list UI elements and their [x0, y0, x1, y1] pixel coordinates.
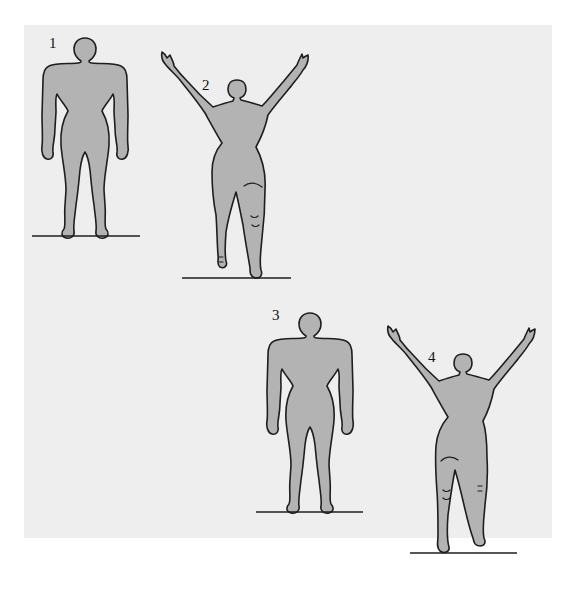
body-posture-diagram: 1 2 3 4 [0, 0, 572, 595]
figure-2-label: 2 [202, 77, 210, 93]
figure-4-label: 4 [428, 349, 436, 365]
figure-3-label: 3 [272, 307, 280, 323]
figure-1-label: 1 [49, 35, 57, 51]
